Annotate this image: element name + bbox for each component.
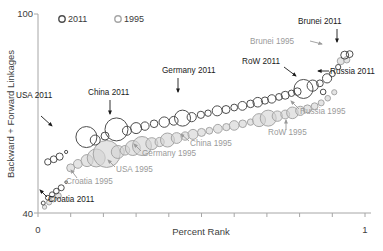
x-axis-title: Percent Rank xyxy=(172,226,230,237)
annotation-label-germany-1995: Germany 1995 xyxy=(142,149,197,158)
data-point-1995-24 xyxy=(239,120,247,128)
data-point-1995-35 xyxy=(325,95,331,101)
annotation-label-germany-2011: Germany 2011 xyxy=(162,66,216,75)
annotation-label-croatia-2011: Croatia 2011 xyxy=(48,195,95,204)
y-axis-title: Backward + Forward Linkages xyxy=(5,50,16,178)
annotation-label-usa-1995: USA 1995 xyxy=(116,165,153,174)
data-point-1995-20 xyxy=(206,127,213,134)
data-point-1995-16 xyxy=(171,133,182,144)
scatter-bubble-chart: USA 2011China 2011Germany 2011RoW 2011Br… xyxy=(0,0,383,251)
data-point-1995-21 xyxy=(213,124,222,133)
chart-container: USA 2011China 2011Germany 2011RoW 2011Br… xyxy=(0,0,383,251)
annotation-label-china-2011: China 2011 xyxy=(88,88,130,97)
annotation-label-brunei-1995: Brunei 1995 xyxy=(250,37,295,46)
data-point-1995-34 xyxy=(318,100,324,106)
annotation-label-brunei-2011: Brunei 2011 xyxy=(298,17,342,26)
legend-label-2011[interactable]: 2011 xyxy=(68,14,87,24)
annotation-label-row-1995: RoW 1995 xyxy=(268,128,307,137)
data-point-1995-23 xyxy=(229,121,239,131)
annotation-label-croatia-1995: Croatia 1995 xyxy=(66,177,113,186)
annotation-label-russia-1995: Russia 1995 xyxy=(300,107,346,116)
annotation-label-russia-2011: Russia 2011 xyxy=(330,67,375,76)
y-axis-tick-top: 100 xyxy=(17,8,33,19)
annotation-label-usa-2011: USA 2011 xyxy=(16,91,53,100)
y-axis-tick-bottom: 40 xyxy=(22,208,33,219)
data-point-1995-36 xyxy=(332,90,337,95)
annotation-label-china-1995: China 1995 xyxy=(190,139,232,148)
data-point-1995-18 xyxy=(188,129,198,139)
x-axis-tick-right: 1 xyxy=(362,224,367,235)
data-point-1995-22 xyxy=(223,124,230,131)
annotation-label-row-2011: RoW 2011 xyxy=(242,57,281,66)
legend-label-1995[interactable]: 1995 xyxy=(124,14,144,24)
data-point-1995-19 xyxy=(198,128,206,136)
x-axis-tick-left: 0 xyxy=(35,224,40,235)
